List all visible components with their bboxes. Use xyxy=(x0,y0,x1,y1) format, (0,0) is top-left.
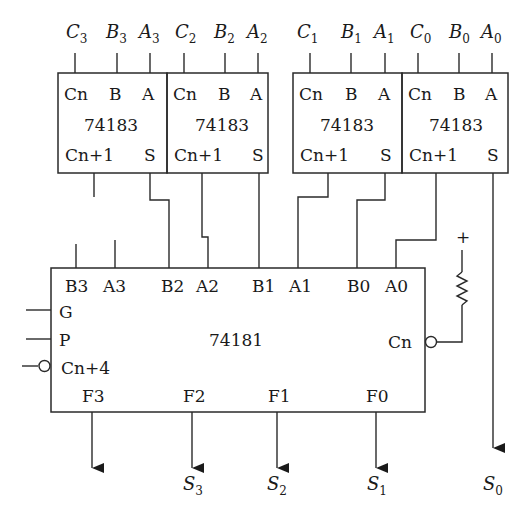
plus-supply-symbol: + xyxy=(456,227,470,247)
output-labels: S3 S2 S1 S0 xyxy=(183,473,503,498)
circuit-diagram: C3 B3 A3 C2 B2 A2 C1 B1 A1 C0 B0 A0 Cn B… xyxy=(0,0,522,509)
adder-74183-bit0: Cn B A 74183 Cn+1 S xyxy=(402,73,508,173)
pin-s: S xyxy=(252,145,264,165)
alu-pin-a0: A0 xyxy=(384,276,408,296)
output-label-s2: S2 xyxy=(267,473,287,498)
pin-a: A xyxy=(249,84,263,104)
inverter-bubble-cn xyxy=(426,337,437,348)
pin-b: B xyxy=(218,84,231,104)
pin-cn1: Cn+1 xyxy=(409,145,458,165)
output-label-s0: S0 xyxy=(483,473,503,498)
chip-label: 74183 xyxy=(84,115,138,135)
pin-cn: Cn xyxy=(299,84,323,104)
adder-74183-bit3: Cn B A 74183 Cn+1 S xyxy=(58,73,167,173)
pullup-network: + xyxy=(426,227,471,348)
alu-pin-a1: A1 xyxy=(288,276,312,296)
output-arrows xyxy=(92,412,376,468)
input-label-c3: C3 xyxy=(66,21,87,46)
pin-a: A xyxy=(141,84,155,104)
pin-cn1: Cn+1 xyxy=(300,145,349,165)
chip-label: 74183 xyxy=(195,115,249,135)
alu-left-wires xyxy=(22,310,51,372)
interconnect-wires xyxy=(76,173,493,448)
output-label-s3: S3 xyxy=(183,473,203,498)
alu-pin-f0: F0 xyxy=(366,386,389,406)
alu-pin-f1: F1 xyxy=(268,386,291,406)
alu-pin-cn: Cn xyxy=(388,332,412,352)
input-label-a0: A0 xyxy=(479,21,502,46)
input-label-b2: B2 xyxy=(213,21,235,46)
adder-74183-bit1: Cn B A 74183 Cn+1 S xyxy=(293,73,402,173)
alu-pin-f3: F3 xyxy=(82,386,105,406)
alu-pin-b2: B2 xyxy=(161,276,184,296)
pin-a: A xyxy=(377,84,391,104)
alu-pin-f2: F2 xyxy=(183,386,206,406)
alu-pin-cn4: Cn+4 xyxy=(61,358,110,378)
pin-cn: Cn xyxy=(408,84,432,104)
alu-pin-b1: B1 xyxy=(252,276,275,296)
alu-74181: B3 A3 B2 A2 B1 A1 B0 A0 G P Cn+4 74181 C… xyxy=(51,268,425,412)
input-label-c1: C1 xyxy=(297,21,318,46)
alu-pin-b0: B0 xyxy=(347,276,370,296)
adder-74183-bit2: Cn B A 74183 Cn+1 S xyxy=(167,73,268,173)
alu-pin-p: P xyxy=(59,330,70,350)
pin-b: B xyxy=(109,84,122,104)
alu-chip-label: 74181 xyxy=(209,330,263,350)
input-label-b3: B3 xyxy=(105,21,127,46)
alu-pin-a2: A2 xyxy=(195,276,219,296)
input-label-a2: A2 xyxy=(245,21,268,46)
resistor-icon xyxy=(457,272,467,305)
inverter-bubble-cn4 xyxy=(39,361,50,372)
input-label-a1: A1 xyxy=(372,21,395,46)
input-label-c2: C2 xyxy=(175,21,196,46)
alu-pin-a3: A3 xyxy=(102,276,126,296)
input-label-b1: B1 xyxy=(340,21,362,46)
top-input-labels: C3 B3 A3 C2 B2 A2 C1 B1 A1 C0 B0 A0 xyxy=(66,21,502,46)
chip-label: 74183 xyxy=(429,115,483,135)
input-label-c0: C0 xyxy=(410,21,431,46)
pin-a: A xyxy=(484,84,498,104)
input-label-a3: A3 xyxy=(137,21,160,46)
chip-label: 74183 xyxy=(320,115,374,135)
alu-pin-b3: B3 xyxy=(65,276,88,296)
top-input-wires xyxy=(75,53,492,73)
alu-pin-g: G xyxy=(59,302,73,322)
input-label-b0: B0 xyxy=(448,21,470,46)
pin-b: B xyxy=(453,84,466,104)
pin-cn: Cn xyxy=(64,84,88,104)
pin-cn1: Cn+1 xyxy=(174,145,223,165)
pin-s: S xyxy=(380,145,392,165)
output-label-s1: S1 xyxy=(367,473,387,498)
pin-cn: Cn xyxy=(173,84,197,104)
pin-s: S xyxy=(144,145,156,165)
pin-s: S xyxy=(487,145,499,165)
pin-cn1: Cn+1 xyxy=(65,145,114,165)
pin-b: B xyxy=(345,84,358,104)
